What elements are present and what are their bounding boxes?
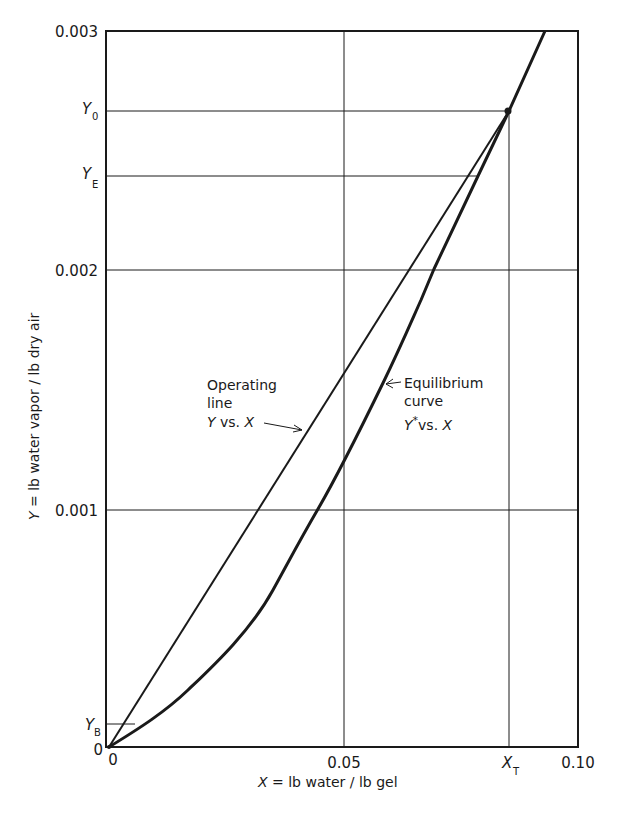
y-tick-0.001: 0.001: [55, 502, 98, 520]
y-tick-0.003: 0.003: [55, 23, 98, 41]
origin-point: [107, 745, 111, 749]
y-tick-ye: Y E: [82, 165, 98, 190]
svg-text:Y vs. X: Y vs. X: [207, 414, 255, 430]
x-axis-label: X = lb water / lb gel: [257, 774, 398, 790]
equilibrium-curve-annotation: Equilibrium curve Y*vs. X: [386, 375, 483, 433]
x-tick-0.05: 0.05: [327, 754, 360, 772]
x-tick-0.10: 0.10: [561, 754, 594, 772]
chart-canvas: 0.003 0.002 0.001 0 Y 0 Y E Y B 0 0.05 X…: [0, 0, 617, 814]
x-tick-0: 0: [108, 751, 118, 769]
operating-line-annotation: Operating line Y vs. X: [207, 377, 302, 432]
intersection-point: [505, 108, 512, 115]
y-tick-y0: Y 0: [82, 100, 98, 122]
svg-text:Y*vs. X: Y*vs. X: [404, 414, 453, 433]
svg-text:E: E: [92, 179, 98, 190]
svg-text:Equilibrium: Equilibrium: [404, 375, 483, 391]
y-axis-label: Y = lb water vapor / lb dry air: [26, 312, 42, 520]
svg-text:curve: curve: [404, 393, 443, 409]
svg-text:line: line: [207, 395, 232, 411]
svg-text:Operating: Operating: [207, 377, 277, 393]
svg-text:0: 0: [92, 111, 98, 122]
y-tick-yb: Y B: [85, 716, 101, 738]
svg-text:X: X: [501, 754, 513, 772]
svg-text:B: B: [94, 727, 101, 738]
y-tick-0.002: 0.002: [55, 262, 98, 280]
x-tick-xt: X T: [501, 754, 520, 777]
y-tick-0: 0: [93, 741, 103, 759]
svg-text:T: T: [512, 766, 520, 777]
